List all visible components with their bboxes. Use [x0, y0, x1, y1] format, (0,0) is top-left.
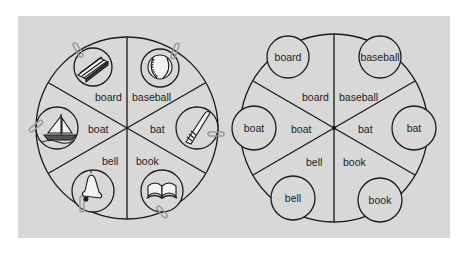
sector-word-boat: boat — [291, 123, 312, 135]
sector-word-board: board — [302, 91, 329, 103]
sector-word-book: book — [343, 156, 367, 168]
circle-label-baseball: baseball — [360, 51, 399, 63]
word-wheels-diagram: board baseball bat book bell boat board … — [0, 0, 466, 253]
sector-word-boat: boat — [88, 123, 109, 135]
circle-label-bell: bell — [285, 192, 301, 204]
circle-label-bat: bat — [407, 122, 422, 134]
circle-label-book: book — [369, 194, 393, 206]
sector-word-book: book — [136, 155, 160, 167]
sector-word-board: board — [95, 91, 122, 103]
circle-label-boat: boat — [244, 122, 265, 134]
sector-word-bat: bat — [150, 123, 165, 135]
sector-word-bell: bell — [102, 155, 118, 167]
circle-label-board: board — [275, 51, 302, 63]
sector-word-baseball: baseball — [132, 91, 171, 103]
sector-word-bell: bell — [306, 156, 322, 168]
baseball-icon — [148, 55, 172, 79]
sector-word-baseball: baseball — [339, 91, 378, 103]
sector-word-bat: bat — [358, 123, 373, 135]
